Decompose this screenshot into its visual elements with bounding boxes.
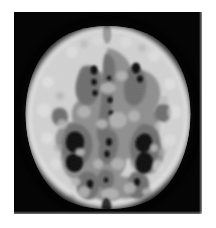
scan-page [0, 0, 216, 228]
brain-scan-image [14, 12, 202, 214]
brain-slice-svg [14, 12, 202, 214]
